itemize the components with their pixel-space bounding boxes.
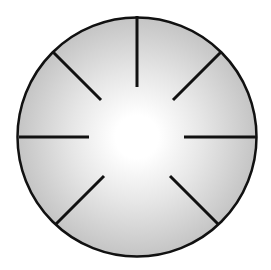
diagram-canvas (0, 0, 271, 270)
